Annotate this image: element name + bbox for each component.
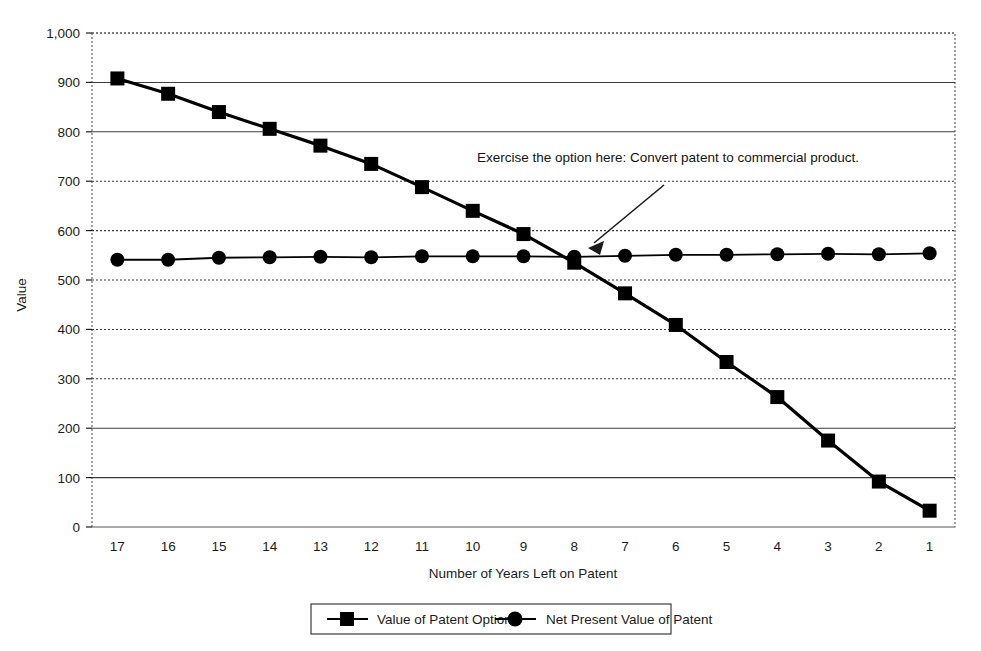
x-tick-label-17: 17: [110, 539, 125, 554]
data-point-circle: [313, 250, 327, 264]
data-point-square: [415, 180, 429, 194]
x-tick-label-2: 2: [875, 539, 883, 554]
data-point-square: [110, 71, 124, 85]
y-tick-label-0: 0: [72, 520, 80, 535]
data-point-circle: [517, 249, 531, 263]
data-point-circle: [161, 253, 175, 267]
data-point-square: [923, 504, 937, 518]
data-point-square: [517, 227, 531, 241]
data-point-circle: [618, 249, 632, 263]
x-tick-label-13: 13: [313, 539, 328, 554]
y-axis-title: Value: [14, 278, 29, 312]
x-tick-label-6: 6: [672, 539, 680, 554]
data-point-circle: [364, 250, 378, 264]
x-tick-label-12: 12: [364, 539, 379, 554]
data-point-square: [821, 434, 835, 448]
y-tick-label-200: 200: [57, 421, 80, 436]
legend-label-1: Net Present Value of Patent: [546, 612, 713, 627]
data-point-circle: [415, 249, 429, 263]
data-point-circle: [770, 247, 784, 261]
x-tick-label-16: 16: [161, 539, 176, 554]
data-point-circle: [567, 250, 581, 264]
y-tick-label-400: 400: [57, 322, 80, 337]
chart-background: [0, 0, 981, 651]
data-point-square: [618, 286, 632, 300]
data-point-square: [263, 122, 277, 136]
y-tick-label-900: 900: [57, 75, 80, 90]
legend-label-0: Value of Patent Option: [377, 612, 512, 627]
x-tick-label-15: 15: [211, 539, 226, 554]
x-tick-label-11: 11: [415, 539, 429, 554]
data-point-circle: [110, 253, 124, 267]
data-point-square: [720, 355, 734, 369]
data-point-square: [770, 390, 784, 404]
y-tick-label-800: 800: [57, 125, 80, 140]
x-tick-label-3: 3: [824, 539, 832, 554]
data-point-circle: [923, 246, 937, 260]
data-point-circle: [466, 249, 480, 263]
circle-marker-icon: [508, 612, 523, 627]
x-tick-label-7: 7: [621, 539, 629, 554]
data-point-circle: [821, 247, 835, 261]
x-tick-label-10: 10: [465, 539, 480, 554]
data-point-circle: [263, 250, 277, 264]
x-tick-label-8: 8: [571, 539, 579, 554]
data-point-square: [872, 475, 886, 489]
y-tick-label-500: 500: [57, 273, 80, 288]
square-marker-icon: [340, 612, 354, 626]
data-point-square: [364, 157, 378, 171]
y-tick-label-700: 700: [57, 174, 80, 189]
x-tick-label-1: 1: [926, 539, 934, 554]
data-point-square: [313, 139, 327, 153]
y-tick-label-1000: 1,000: [46, 26, 80, 41]
chart-legend: Value of Patent Option Net Present Value…: [311, 604, 713, 634]
y-tick-label-100: 100: [57, 471, 80, 486]
x-tick-label-14: 14: [262, 539, 278, 554]
y-tick-label-600: 600: [57, 224, 80, 239]
data-point-square: [466, 204, 480, 218]
data-point-circle: [669, 248, 683, 262]
data-point-square: [161, 87, 175, 101]
chart-container: 01002003004005006007008009001,000 171615…: [0, 0, 981, 651]
patent-option-value-line-chart: 01002003004005006007008009001,000 171615…: [0, 0, 981, 651]
data-point-square: [669, 318, 683, 332]
x-axis-title: Number of Years Left on Patent: [429, 566, 618, 581]
x-tick-label-5: 5: [723, 539, 731, 554]
data-point-circle: [872, 247, 886, 261]
y-tick-label-300: 300: [57, 372, 80, 387]
x-tick-label-4: 4: [774, 539, 782, 554]
x-tick-label-9: 9: [520, 539, 528, 554]
annotation-text: Exercise the option here: Convert patent…: [477, 150, 859, 165]
data-point-circle: [720, 248, 734, 262]
data-point-circle: [212, 251, 226, 265]
data-point-square: [212, 105, 226, 119]
